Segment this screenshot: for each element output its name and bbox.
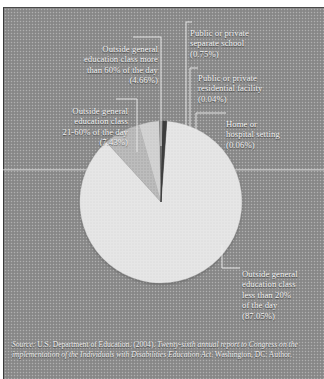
label-home-hospital-value: (0.06%) bbox=[226, 140, 255, 150]
label-21-60-text: Outside general education class 21-60% o… bbox=[63, 106, 128, 137]
label-home-hospital-text: Home or hospital setting bbox=[226, 119, 280, 140]
label-residential-facility-value: (0.04%) bbox=[198, 94, 227, 104]
label-more-than-60-value: (4.66%) bbox=[129, 75, 158, 85]
label-21-60: Outside general education class 21-60% o… bbox=[8, 95, 128, 148]
label-more-than-60-text: Outside general education class more tha… bbox=[84, 44, 158, 75]
label-separate-school: Public or private separate school (0.75%… bbox=[190, 17, 320, 59]
source-note-lead: Source: bbox=[12, 340, 35, 349]
label-less-than-20-text: Outside general education class less tha… bbox=[242, 269, 298, 311]
label-separate-school-value: (0.75%) bbox=[190, 49, 219, 59]
label-residential-facility-text: Public or private residential facility bbox=[198, 73, 262, 94]
source-note: Source: U.S. Department of Education. (2… bbox=[12, 340, 312, 360]
label-more-than-60: Outside general education class more tha… bbox=[34, 33, 158, 86]
source-note-text-1: U.S. Department of Education. (2004). bbox=[35, 340, 157, 349]
label-home-hospital: Home or hospital setting (0.06%) bbox=[226, 108, 324, 150]
source-note-text-2: . Washington, DC: Author. bbox=[211, 350, 292, 359]
label-residential-facility: Public or private residential facility (… bbox=[198, 62, 324, 104]
label-less-than-20-value: (87.05%) bbox=[242, 311, 275, 321]
label-separate-school-text: Public or private separate school bbox=[190, 28, 249, 49]
pie-chart-figure: Outside general education class more tha… bbox=[0, 0, 324, 379]
label-less-than-20: Outside general education class less tha… bbox=[242, 258, 324, 322]
label-21-60-value: (7.43%) bbox=[99, 137, 128, 147]
